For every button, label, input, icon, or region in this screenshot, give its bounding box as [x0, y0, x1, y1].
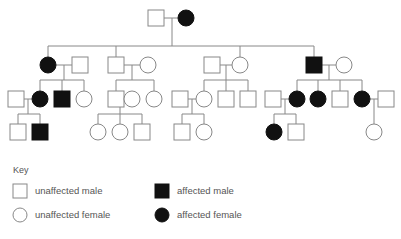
unaffected-male-symbol — [240, 91, 256, 107]
affected-female-symbol — [310, 91, 326, 107]
unaffected-male-symbol — [378, 91, 394, 107]
affected-male-symbol — [54, 91, 70, 107]
unaffected-male-symbol — [8, 91, 24, 107]
affected-female-symbol — [178, 10, 194, 26]
affected-female-symbol — [32, 91, 48, 107]
unaffected-male-symbol — [108, 57, 124, 73]
affected-male-symbol — [306, 57, 322, 73]
unaffected-male-symbol — [204, 57, 220, 73]
unaffected-female-symbol — [196, 124, 212, 140]
unaffected-male-symbol — [265, 91, 281, 107]
unaffected-female-symbol — [140, 57, 156, 73]
unaffected-male-symbol — [218, 91, 234, 107]
unaffected-male-symbol — [72, 57, 88, 73]
key-affected-male-icon — [155, 184, 169, 198]
unaffected-female-symbol — [146, 91, 162, 107]
affected-female-symbol — [289, 91, 305, 107]
unaffected-male-symbol — [108, 91, 124, 107]
key-title: Key — [13, 165, 29, 175]
unaffected-female-symbol — [232, 57, 248, 73]
unaffected-male-symbol — [148, 10, 164, 26]
key-label-affected-female: affected female — [177, 209, 242, 220]
affected-female-symbol — [266, 124, 282, 140]
unaffected-male-symbol — [10, 124, 26, 140]
affected-female-symbol — [40, 57, 56, 73]
key-affected-female-icon — [155, 208, 169, 222]
unaffected-female-symbol — [124, 91, 140, 107]
key-label-affected-male: affected male — [177, 185, 234, 196]
pedigree-symbols — [8, 10, 394, 140]
affected-male-symbol — [32, 124, 48, 140]
key-label-unaffected-female: unaffected female — [35, 209, 110, 220]
unaffected-male-symbol — [288, 124, 304, 140]
key-label-unaffected-male: unaffected male — [35, 185, 102, 196]
pedigree-chart — [0, 0, 401, 239]
affected-female-symbol — [354, 91, 370, 107]
unaffected-male-symbol — [134, 124, 150, 140]
key-unaffected-male-icon — [13, 184, 27, 198]
unaffected-female-symbol — [112, 124, 128, 140]
unaffected-female-symbol — [196, 91, 212, 107]
unaffected-female-symbol — [336, 57, 352, 73]
key-unaffected-female-icon — [13, 208, 27, 222]
unaffected-male-symbol — [172, 91, 188, 107]
unaffected-female-symbol — [366, 124, 382, 140]
unaffected-male-symbol — [174, 124, 190, 140]
unaffected-female-symbol — [90, 124, 106, 140]
unaffected-male-symbol — [332, 91, 348, 107]
unaffected-female-symbol — [76, 91, 92, 107]
